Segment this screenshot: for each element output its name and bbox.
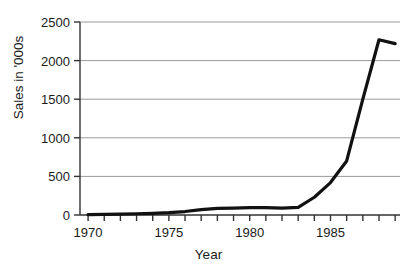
y-tick-label: 1500: [24, 93, 70, 106]
x-tick-label: 1985: [301, 226, 361, 239]
y-tick-label: 0: [24, 209, 70, 222]
y-tick-label: 2500: [24, 16, 70, 29]
y-axis-ticks: [74, 22, 80, 215]
x-axis-title: Year: [0, 247, 417, 262]
gridlines: [80, 22, 400, 176]
x-tick-label: 1980: [220, 226, 280, 239]
y-tick-label: 2000: [24, 55, 70, 68]
sales-line-chart: 05001000150020002500 1970197519801985 Sa…: [0, 0, 417, 273]
x-axis-ticks: [88, 215, 395, 221]
x-tick-label: 1970: [58, 226, 118, 239]
x-tick-label: 1975: [139, 226, 199, 239]
y-axis-title: Sales in '000s: [11, 18, 26, 138]
y-tick-label: 1000: [24, 132, 70, 145]
sales-data-line: [88, 40, 395, 215]
y-tick-label: 500: [24, 170, 70, 183]
